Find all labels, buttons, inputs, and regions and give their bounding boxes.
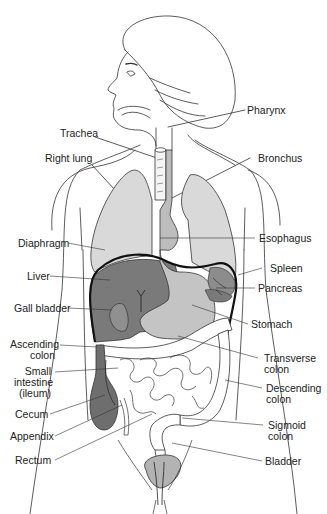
label-bronchus: Bronchus bbox=[258, 153, 302, 164]
label-stomach: Stomach bbox=[251, 319, 292, 330]
label-gall-bladder: Gall bladder bbox=[14, 303, 71, 314]
small-intestine bbox=[120, 359, 174, 406]
ascending-colon bbox=[90, 345, 118, 430]
hair bbox=[123, 16, 235, 128]
label-liver: Liver bbox=[27, 271, 50, 282]
label-descending-colon: Descending colon bbox=[266, 383, 321, 405]
label-ascending-colon: Ascending colon bbox=[10, 339, 55, 361]
anatomy-diagram: Pharynx Trachea Right lung Bronchus Diap… bbox=[0, 0, 327, 514]
label-right-lung: Right lung bbox=[45, 153, 92, 164]
label-esophagus: Esophagus bbox=[259, 233, 312, 244]
label-transverse-colon: Transverse colon bbox=[264, 353, 316, 375]
trachea bbox=[155, 150, 166, 200]
label-diaphragm: Diaphragm bbox=[18, 238, 69, 249]
label-pharynx: Pharynx bbox=[247, 105, 286, 116]
label-rectum: Rectum bbox=[15, 455, 51, 466]
label-pancreas: Pancreas bbox=[258, 283, 302, 294]
label-trachea: Trachea bbox=[60, 128, 98, 139]
sigmoid-colon bbox=[150, 414, 180, 450]
label-cecum: Cecum bbox=[15, 409, 48, 420]
label-sigmoid-colon: Sigmoid colon bbox=[268, 420, 306, 442]
label-appendix: Appendix bbox=[10, 431, 54, 442]
label-small-intestine: Small intestine (ileum) bbox=[14, 366, 51, 399]
appendix bbox=[120, 398, 129, 435]
label-spleen: Spleen bbox=[270, 263, 303, 274]
label-bladder: Bladder bbox=[265, 456, 301, 467]
